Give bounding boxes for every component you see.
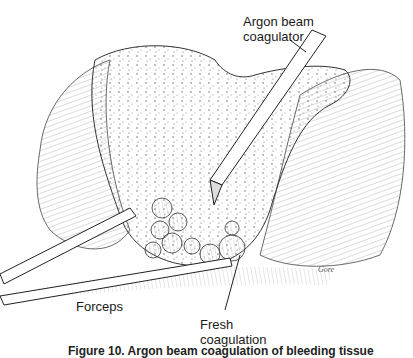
label-fresh-coagulation: Fresh coagulation bbox=[200, 317, 267, 347]
label-argon-beam-coagulator: Argon beam coagulator bbox=[243, 14, 314, 44]
artist-signature: Gore bbox=[318, 265, 335, 274]
figure-caption: Figure 10. Argon beam coagulation of ble… bbox=[68, 344, 374, 358]
label-argon-line1: Argon beam bbox=[243, 14, 314, 29]
label-fresh-line1: Fresh bbox=[200, 317, 267, 332]
label-forceps: Forceps bbox=[76, 299, 123, 314]
label-argon-line2: coagulator bbox=[243, 29, 314, 44]
